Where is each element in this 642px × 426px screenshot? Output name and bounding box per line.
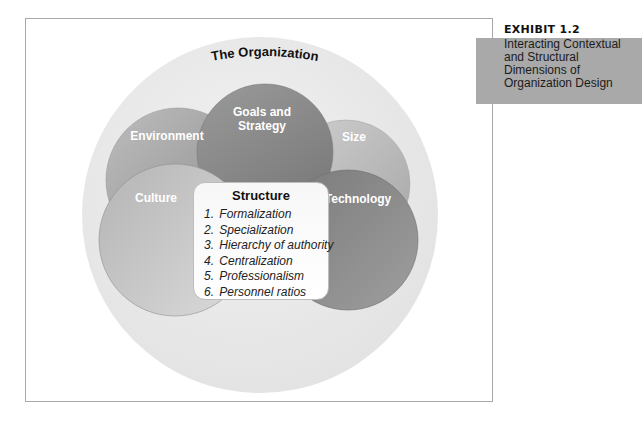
goals-strategy-label-line2: Strategy (238, 119, 286, 133)
structure-item-number: 2. (204, 223, 216, 239)
structure-item: 5. Professionalism (204, 269, 333, 285)
structure-item-number: 1. (204, 207, 216, 223)
structure-item: 2. Specialization (204, 223, 333, 239)
structure-item-number: 4. (204, 254, 216, 270)
structure-list: 1. Formalization 2. Specialization 3. Hi… (204, 207, 333, 300)
structure-title: Structure (194, 188, 328, 203)
structure-item-text: Centralization (219, 254, 292, 268)
structure-item: 4. Centralization (204, 254, 333, 270)
structure-item: 1. Formalization (204, 207, 333, 223)
structure-item-text: Specialization (219, 223, 293, 237)
structure-item-text: Formalization (219, 207, 291, 221)
technology-label: Technology (325, 192, 392, 206)
goals-strategy-label-line1: Goals and (233, 105, 291, 119)
structure-item-text: Professionalism (219, 269, 304, 283)
structure-item-text: Hierarchy of authority (219, 238, 333, 252)
environment-label: Environment (130, 129, 203, 143)
structure-item: 6. Personnel ratios (204, 285, 333, 301)
structure-item-text: Personnel ratios (219, 285, 306, 299)
structure-item-number: 5. (204, 269, 216, 285)
structure-item-number: 3. (204, 238, 216, 254)
structure-item-number: 6. (204, 285, 216, 301)
size-label: Size (342, 130, 366, 144)
structure-box: Structure 1. Formalization 2. Specializa… (193, 182, 329, 300)
culture-label: Culture (135, 191, 177, 205)
structure-item: 3. Hierarchy of authority (204, 238, 333, 254)
